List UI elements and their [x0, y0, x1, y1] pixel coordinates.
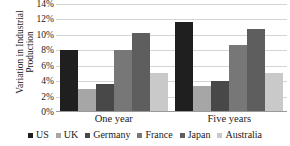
bar: [247, 29, 265, 112]
y-axis-tick-label: 6%: [41, 61, 54, 71]
plot-area: [56, 4, 287, 112]
y-axis-tick-label: 10%: [37, 30, 54, 40]
chart-legend: USUKGermanyFranceJapanAustralia: [0, 130, 290, 140]
x-axis-category-label: Five years: [208, 113, 251, 124]
bar: [265, 73, 283, 112]
y-axis-tick-label: 2%: [41, 92, 54, 102]
bar: [78, 89, 96, 112]
legend-swatch-icon: [180, 133, 185, 138]
y-axis-tick-label: 8%: [41, 45, 54, 55]
x-axis-line: [56, 111, 287, 112]
legend-swatch-icon: [56, 133, 61, 138]
legend-swatch-icon: [137, 133, 142, 138]
y-axis-tick-label: 4%: [41, 76, 54, 86]
legend-item: Japan: [180, 130, 211, 140]
legend-swatch-icon: [85, 133, 90, 138]
legend-label: Germany: [93, 130, 130, 140]
bar-group: [60, 4, 168, 112]
legend-label: Australia: [225, 130, 262, 140]
y-axis-tick-label: 0%: [41, 107, 54, 117]
bar-chart: Variation in Industrial Production 0%2%4…: [0, 0, 290, 146]
legend-label: Japan: [188, 130, 211, 140]
bars-layer: [56, 4, 287, 112]
bar: [175, 22, 193, 112]
bar: [150, 73, 168, 112]
bar: [229, 45, 247, 112]
y-axis-tick-labels: 0%2%4%6%8%10%12%14%: [28, 0, 54, 112]
legend-item: France: [137, 130, 172, 140]
bar-group: [175, 4, 283, 112]
bar: [96, 84, 114, 112]
legend-label: France: [145, 130, 172, 140]
y-axis-tick-label: 14%: [37, 0, 54, 9]
bar: [193, 86, 211, 112]
legend-label: UK: [64, 130, 78, 140]
x-axis-category-label: One year: [95, 113, 133, 124]
legend-item: UK: [56, 130, 78, 140]
bar: [60, 50, 78, 112]
bar: [211, 81, 229, 112]
bar: [132, 33, 150, 112]
x-axis-category-labels: One yearFive years: [56, 113, 287, 129]
bar: [114, 50, 132, 112]
legend-item: Australia: [217, 130, 262, 140]
legend-item: US: [28, 130, 49, 140]
y-axis-tick-label: 12%: [37, 14, 54, 24]
legend-swatch-icon: [28, 133, 33, 138]
legend-item: Germany: [85, 130, 130, 140]
legend-swatch-icon: [217, 133, 222, 138]
legend-label: US: [36, 130, 49, 140]
